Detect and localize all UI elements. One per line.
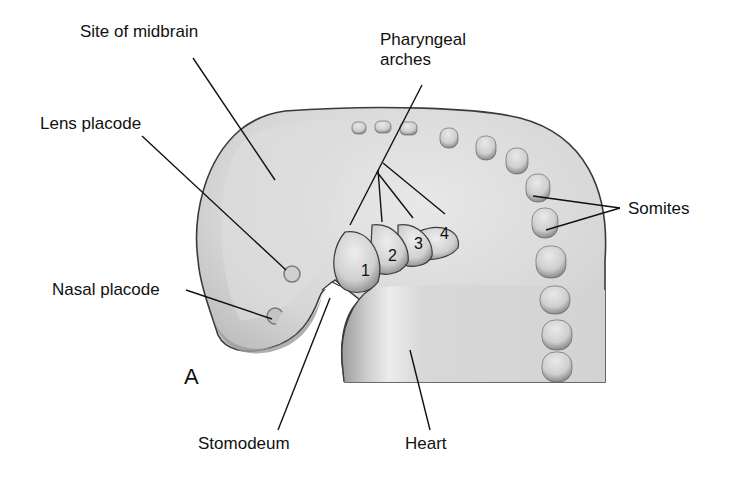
label-heart: Heart — [405, 434, 447, 454]
label-nasal-placode: Nasal placode — [52, 280, 160, 300]
embryo-illustration — [0, 0, 739, 481]
panel-letter: A — [184, 364, 199, 390]
label-pharyngeal: Pharyngeal — [380, 30, 466, 50]
label-arches: arches — [380, 50, 431, 70]
arch-number-1: 1 — [361, 263, 370, 279]
arch-number-2: 2 — [388, 248, 397, 264]
forebrain-region — [222, 119, 350, 320]
embryo-diagram: Site of midbrain Lens placode Nasal plac… — [0, 0, 739, 481]
label-stomodeum: Stomodeum — [198, 434, 290, 454]
label-somites: Somites — [628, 199, 689, 219]
arch-number-4: 4 — [440, 226, 449, 242]
label-site-of-midbrain: Site of midbrain — [80, 22, 198, 42]
label-lens-placode: Lens placode — [40, 114, 141, 134]
lens-placode — [284, 266, 300, 282]
arch-number-3: 3 — [414, 236, 423, 252]
